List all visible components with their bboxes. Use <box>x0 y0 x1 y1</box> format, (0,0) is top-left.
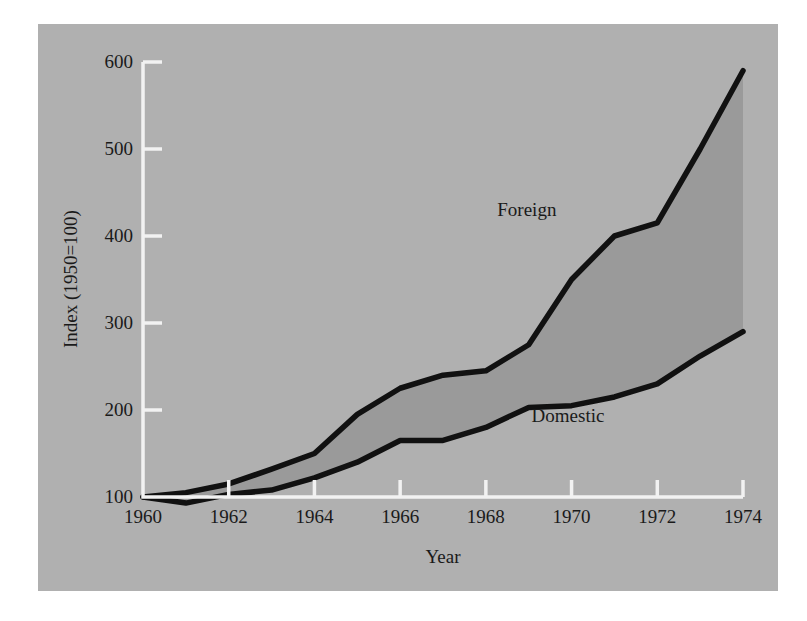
x-axis-title: Year <box>383 547 503 566</box>
y-tick-label: 200 <box>85 400 133 419</box>
series-label-domestic: Domestic <box>532 406 605 425</box>
y-tick-label: 400 <box>85 226 133 245</box>
x-tick-label: 1962 <box>199 507 259 526</box>
x-tick-label: 1974 <box>713 507 773 526</box>
x-tick-label: 1968 <box>456 507 516 526</box>
x-tick-label: 1972 <box>627 507 687 526</box>
y-tick-label: 300 <box>85 313 133 332</box>
x-tick-label: 1966 <box>370 507 430 526</box>
x-tick-label: 1960 <box>113 507 173 526</box>
y-tick-label: 100 <box>85 487 133 506</box>
series-label-foreign: Foreign <box>497 200 556 219</box>
y-tick-label: 500 <box>85 139 133 158</box>
figure-container: 100200300400500600 196019621964196619681… <box>0 0 807 621</box>
x-tick-label: 1964 <box>284 507 344 526</box>
x-tick-label: 1970 <box>542 507 602 526</box>
y-tick-label: 600 <box>85 52 133 71</box>
y-axis-title: Index (1950=100) <box>60 179 82 379</box>
y-axis-ticks <box>143 62 162 410</box>
chart-panel: 100200300400500600 196019621964196619681… <box>38 24 778 591</box>
